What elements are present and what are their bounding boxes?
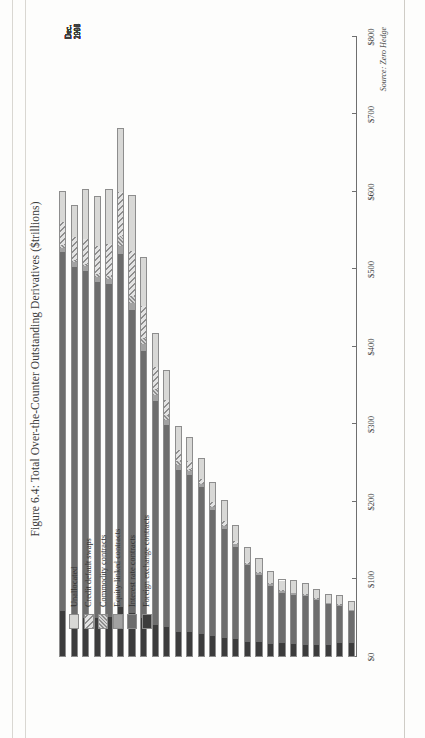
bar-segment-equity [106, 279, 111, 284]
rotated-figure-frame: Figure 6.4: Total Over-the-Counter Outst… [27, 19, 399, 719]
bar-segment-unallocated [117, 129, 122, 192]
bar-segment-cds [233, 541, 238, 543]
chart-legend: UnallocatedCredit default swapsCommodity… [67, 439, 154, 629]
legend-item-interest_rate: Interest rate contracts [125, 439, 140, 629]
axis-tick [352, 114, 357, 115]
bar-segment-cds [140, 306, 145, 338]
category-label: Dec.2010 [65, 24, 69, 39]
bar-segment-commodity [71, 260, 76, 262]
legend-label: Interest rate contracts [127, 535, 136, 607]
bar-segment-commodity [279, 590, 284, 591]
bar-segment-cds [210, 502, 215, 507]
legend-item-commodity: Commodity contracts [96, 439, 111, 629]
bar-segment-foreign_exchange [314, 645, 319, 656]
bar-segment-equity [94, 277, 99, 282]
bar-segment-commodity [140, 338, 145, 344]
bar-segment-foreign_exchange [210, 636, 215, 656]
axis-tick-label: $100 [366, 571, 376, 588]
bar-segment-unallocated [267, 572, 272, 583]
legend-item-equity: Equity-linked contracts [110, 439, 125, 629]
bar-segment-equity [279, 591, 284, 593]
bar-segment-commodity [267, 583, 272, 584]
bar-segment-unallocated [302, 584, 307, 594]
bar-segment-cds [175, 450, 180, 461]
figure-title: Figure 6.4: Total Over-the-Counter Outst… [29, 19, 41, 719]
legend-item-unallocated: Unallocated [67, 439, 82, 629]
bar-dec-2003 [220, 500, 227, 657]
legend-label: Credit default swaps [84, 538, 93, 607]
bar-dec-2000 [289, 580, 296, 657]
bar-segment-foreign_exchange [256, 642, 261, 656]
bar-segment-commodity [290, 593, 295, 594]
bar-segment-interest_rate [290, 595, 295, 644]
legend-label: Equity-linked contracts [113, 529, 122, 607]
bar-segment-foreign_exchange [302, 645, 307, 656]
bar-jun-1998 [347, 601, 354, 657]
bar-segment-equity [244, 564, 249, 566]
legend-label: Commodity contracts [98, 535, 107, 607]
figure-page: Figure 6.4: Total Over-the-Counter Outst… [0, 0, 425, 738]
bar-segment-cds [83, 239, 88, 264]
bar-dec-2010 [59, 191, 66, 657]
bar-segment-equity [348, 610, 353, 611]
bar-segment-unallocated [175, 427, 180, 450]
page-gutter-line-right [404, 0, 405, 738]
bar-segment-cds [187, 461, 192, 469]
bar-segment-equity [210, 507, 215, 510]
bar-segment-cds [244, 562, 249, 564]
bar-segment-unallocated [94, 197, 99, 246]
legend-swatch-unallocated [69, 614, 79, 629]
bar-segment-foreign_exchange [348, 643, 353, 656]
bar-segment-equity [337, 605, 342, 606]
bar-segment-interest_rate [210, 510, 215, 636]
bar-segment-foreign_exchange [60, 611, 65, 656]
bar-dec-1998 [336, 595, 343, 657]
bar-segment-interest_rate [233, 547, 238, 640]
category-axis-labels: Jun.1998Dec.1998Dec.1999Dec.2000Dec.2001… [57, 0, 357, 33]
bar-segment-equity [175, 465, 180, 470]
bar-segment-commodity [175, 461, 180, 466]
bar-segment-unallocated [129, 196, 134, 251]
bar-segment-unallocated [83, 190, 88, 239]
bar-segment-unallocated [244, 548, 249, 562]
bar-segment-foreign_exchange [325, 645, 330, 656]
bar-segment-interest_rate [175, 470, 180, 632]
bar-dec-2004 [197, 458, 204, 657]
bar-dec-2002 [243, 547, 250, 657]
bar-jun-2004 [209, 482, 216, 657]
bar-segment-commodity [106, 276, 111, 279]
bar-jun-2003 [232, 525, 239, 657]
axis-tick-label: $600 [366, 184, 376, 201]
bar-segment-interest_rate [221, 529, 226, 638]
bar-segment-foreign_exchange [267, 644, 272, 656]
bar-segment-cds [221, 521, 226, 526]
bar-segment-unallocated [337, 596, 342, 604]
bar-segment-unallocated [164, 371, 169, 399]
bar-segment-commodity [302, 594, 307, 595]
legend-swatch-cds [83, 614, 93, 629]
page-gutter-line-left [12, 0, 13, 738]
bar-segment-cds [60, 222, 65, 245]
axis-tick [352, 346, 357, 347]
bar-segment-commodity [129, 296, 134, 303]
axis-tick [352, 269, 357, 270]
bar-segment-interest_rate [302, 596, 307, 644]
bar-segment-cds [117, 192, 122, 236]
axis-tick-label: $200 [366, 494, 376, 511]
bar-segment-interest_rate [244, 565, 249, 642]
bar-segment-unallocated [140, 258, 145, 306]
bar-segment-equity [221, 526, 226, 529]
axis-tick-label: $400 [366, 339, 376, 356]
bar-segment-unallocated [210, 483, 215, 502]
bar-segment-equity [140, 344, 145, 351]
bar-segment-cds [94, 246, 99, 274]
bar-segment-interest_rate [60, 252, 65, 611]
bar-segment-commodity [198, 483, 203, 484]
bar-segment-unallocated [198, 459, 203, 479]
bar-segment-commodity [60, 246, 65, 248]
bar-jun-2005 [186, 437, 193, 657]
bar-segment-equity [267, 584, 272, 586]
bar-segment-commodity [244, 563, 249, 564]
bar-segment-equity [290, 593, 295, 595]
bar-segment-foreign_exchange [244, 642, 249, 656]
